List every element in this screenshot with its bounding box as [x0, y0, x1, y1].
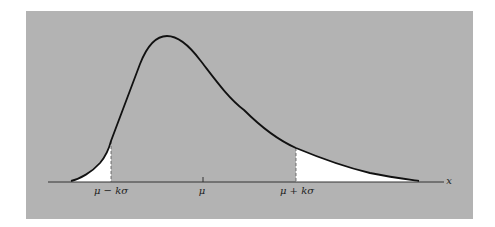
density-curve: [71, 36, 419, 181]
left-tail-region: [71, 141, 111, 182]
density-plot: [0, 0, 495, 227]
mean-label: μ: [199, 185, 206, 196]
lower-bound-label: μ − kσ: [94, 185, 128, 196]
upper-bound-label: μ + kσ: [280, 185, 314, 196]
right-tail-region: [296, 148, 419, 182]
x-axis-label: x: [446, 175, 452, 186]
